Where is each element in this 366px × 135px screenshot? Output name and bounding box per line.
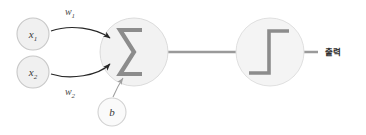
diagram-canvas: x1 x2 b w1 w2 출력 <box>0 0 366 135</box>
input-node-x1[interactable]: x1 <box>17 18 49 50</box>
weight-label-w2: w2 <box>65 86 76 100</box>
perceptron-diagram: x1 x2 b w1 w2 출력 <box>0 0 366 135</box>
bias-node-label: b <box>109 106 115 118</box>
weight-label-w1: w1 <box>65 6 75 20</box>
bias-node[interactable]: b <box>98 98 126 126</box>
input-node-x2[interactable]: x2 <box>17 56 49 88</box>
activation-node[interactable] <box>236 18 304 86</box>
output-label: 출력 <box>325 47 341 57</box>
sum-node[interactable] <box>100 18 168 86</box>
edge-x2-to-sum <box>51 64 110 77</box>
edge-x1-to-sum <box>51 27 110 38</box>
